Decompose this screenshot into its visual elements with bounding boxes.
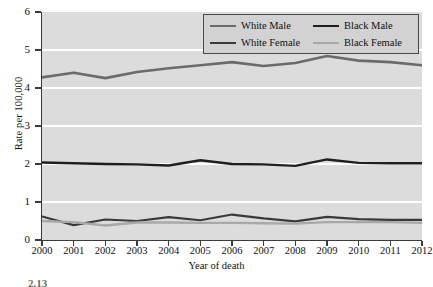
y-tick-label: 0 [4,233,30,245]
figure-caption: 2.13 [28,277,47,287]
series-line-black-male [42,159,422,165]
x-axis-title: Year of death [0,260,433,271]
legend-label-white-female: White Female [241,37,300,48]
y-tick-label: 5 [4,43,30,55]
y-tick [35,87,41,88]
series-line-white-male [42,56,422,78]
legend-item-white-female[interactable]: White Female [208,37,311,48]
legend-label-black-female: Black Female [344,37,402,48]
y-tick [35,125,41,126]
legend-label-white-male: White Male [241,20,291,31]
chart-figure: Rate per 100,000 Year of death 0123456 2… [0,0,433,287]
legend-swatch-black-male [313,25,339,27]
legend-item-white-male[interactable]: White Male [208,20,311,31]
y-tick [35,239,41,240]
legend-item-black-female[interactable]: Black Female [311,37,414,48]
y-tick-label: 2 [4,157,30,169]
y-tick [35,49,41,50]
y-tick-label: 3 [4,119,30,131]
y-tick [35,11,41,12]
legend-item-black-male[interactable]: Black Male [311,20,414,31]
legend-row: White Female Black Female [208,34,414,51]
x-tick-label: 2012 [402,245,433,256]
y-tick-label: 1 [4,195,30,207]
y-axis-title: Rate per 100,000 [13,34,24,194]
legend-swatch-black-female [313,42,339,44]
legend-label-black-male: Black Male [344,20,393,31]
y-tick-label: 4 [4,81,30,93]
y-tick [35,163,41,164]
legend: White Male Black Male White Female Black… [203,14,419,54]
y-tick-label: 6 [4,5,30,17]
y-tick [35,201,41,202]
legend-swatch-white-female [210,42,236,44]
legend-swatch-white-male [210,25,236,27]
legend-row: White Male Black Male [208,17,414,34]
